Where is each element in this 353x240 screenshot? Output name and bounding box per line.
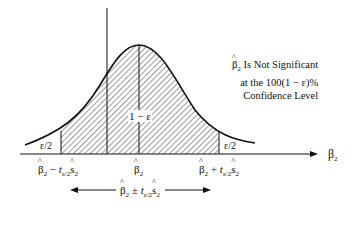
right-arrow-icon (203, 187, 211, 193)
right-tail-label: ε/2 (224, 140, 236, 152)
axis-arrow-icon (310, 151, 318, 157)
hatched-region (25, 45, 255, 154)
axis-label: β2 (328, 148, 338, 165)
left-tail-label: ε/2 (40, 140, 52, 152)
left-arrow-icon (70, 187, 78, 193)
significance-note: β2 Is Not Significant at the 100(1 − ε)%… (232, 58, 318, 102)
center-area-label: 1 − ε (128, 110, 152, 122)
interval-label: β2 ± tε/2s2 (120, 184, 160, 201)
tick-left-label: β2 − tε/2s2 (38, 163, 78, 180)
tick-center-label: β2 (134, 163, 143, 180)
tick-right-label: β2 + tε/2s2 (199, 163, 239, 180)
